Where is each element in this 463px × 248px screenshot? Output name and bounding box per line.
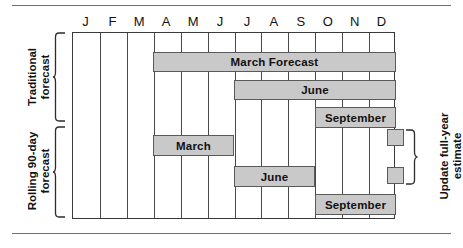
update-label-line1: Update full-year: [438, 104, 451, 208]
timeline-grid: March ForecastJuneSeptemberMarchJuneSept…: [72, 32, 395, 219]
update-estimate-marker-1: [387, 129, 404, 146]
month-label-4: M: [180, 14, 207, 30]
month-label-7: A: [260, 14, 287, 30]
bottom-divider-rule: [12, 233, 451, 234]
forecast-bar-label: June: [261, 171, 289, 183]
forecast-bar: June: [234, 166, 315, 187]
traditional-forecast-brace: [52, 32, 66, 122]
month-header-row: JFMAMJJASOND: [72, 14, 395, 30]
rolling-forecast-label-line2: forecast: [39, 125, 52, 217]
forecast-bar: March Forecast: [153, 52, 396, 72]
month-label-5: J: [207, 14, 234, 30]
traditional-forecast-label-line1: Traditional: [26, 32, 39, 122]
month-label-9: O: [314, 14, 341, 30]
forecast-bar-label: September: [325, 112, 386, 124]
rolling-forecast-brace: [52, 126, 66, 218]
update-label-line2: estimate: [451, 104, 463, 208]
forecast-timeline-figure: JFMAMJJASOND Traditional forecast Rollin…: [0, 0, 463, 248]
forecast-bar: March: [153, 135, 234, 156]
rolling-forecast-label-line1: Rolling 90-day: [26, 125, 39, 217]
forecast-bar: June: [234, 80, 396, 100]
grid-line-2: [127, 33, 128, 218]
month-label-8: S: [287, 14, 314, 30]
forecast-bar: September: [315, 194, 396, 215]
update-full-year-estimate-label: Update full-year estimate: [438, 104, 463, 208]
month-label-0: J: [72, 14, 99, 30]
forecast-bar-label: June: [301, 84, 329, 96]
month-label-1: F: [99, 14, 126, 30]
update-estimate-brace: [405, 129, 418, 185]
forecast-bar: September: [315, 107, 396, 128]
forecast-bar-label: September: [325, 199, 386, 211]
traditional-forecast-label-line2: forecast: [39, 32, 52, 122]
month-label-6: J: [234, 14, 261, 30]
month-label-10: N: [341, 14, 368, 30]
update-estimate-marker-2: [387, 167, 404, 184]
forecast-bar-label: March Forecast: [231, 56, 319, 68]
forecast-bar-label: March: [176, 140, 211, 152]
month-label-2: M: [126, 14, 153, 30]
month-label-3: A: [153, 14, 180, 30]
month-label-11: D: [368, 14, 395, 30]
top-divider-rule: [12, 5, 451, 6]
grid-line-1: [100, 33, 101, 218]
